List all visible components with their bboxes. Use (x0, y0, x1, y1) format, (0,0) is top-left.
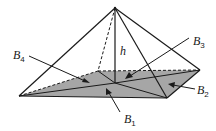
svg-text:B4: B4 (13, 48, 25, 64)
b2-subscript: 2 (204, 90, 209, 99)
height-label: h (120, 44, 126, 58)
lateral-edge-back-left-hidden (98, 8, 115, 71)
b4-subscript: 4 (20, 55, 25, 64)
svg-text:B2: B2 (197, 83, 209, 99)
apex-point (114, 7, 116, 9)
svg-text:B1: B1 (124, 112, 136, 128)
b3-subscript: 3 (200, 41, 205, 50)
b4-callout: B4 (13, 48, 90, 83)
pyramid-diagram: h B4 B3 B2 B1 (0, 0, 216, 131)
svg-text:B3: B3 (193, 34, 205, 50)
b4-arrow-line (29, 56, 85, 81)
b1-subscript: 1 (131, 119, 136, 128)
